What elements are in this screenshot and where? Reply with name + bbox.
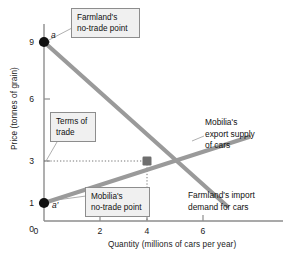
y-tick-label-6: 6 [20,94,34,104]
leader-line-mobilia-export-supply [192,136,204,141]
y-axis-title: Price (tonnes of grain) [10,49,19,169]
data-point-a-prime [39,198,49,208]
data-point-a [39,37,49,47]
label-farmland-import-demand: Farmland's import demand for cars [188,190,255,213]
callout-terms-of-trade: Terms of trade [50,112,96,142]
point-label-a: a [51,30,56,40]
x-tick-label-0: 0 [28,226,44,236]
x-tick-label-2: 2 [92,226,108,236]
point-label-a-prime: a′ [52,200,58,210]
callout-mobilia-no-trade-point: Mobilia's no-trade point [85,187,150,217]
x-axis-title: Quantity (millions of cars per year) [108,240,236,249]
callout-farmland-no-trade-point: Farmland's no-trade point [71,8,140,38]
label-mobilia-export-supply: Mobilia's export supply of cars [205,117,255,152]
y-tick-label-3: 3 [20,156,34,166]
data-point-equilibrium [143,157,152,166]
chart-figure: Price (tonnes of grain) Quantity (millio… [0,0,288,257]
x-tick-label-6: 6 [195,226,211,236]
y-tick-label-1: 1 [20,198,34,208]
leader-line-terms-of-trade [46,142,57,161]
y-tick-label-9: 9 [20,37,34,47]
x-tick-label-4: 4 [139,226,155,236]
